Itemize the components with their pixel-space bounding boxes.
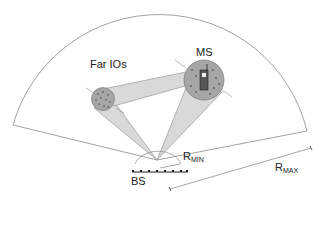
rmin-arrow — [160, 164, 180, 168]
far-ios-label: Far IOs — [90, 58, 127, 70]
rmax-sub: MAX — [283, 167, 298, 174]
base-station-array — [132, 170, 188, 172]
ms-label: MS — [196, 46, 213, 58]
rmin-sub: MIN — [191, 156, 204, 163]
rmin-main: R — [183, 150, 191, 162]
rmin-label: RMIN — [183, 150, 204, 163]
bs-label: BS — [131, 175, 146, 187]
beam-ms-to-far-io — [103, 72, 186, 106]
beam-to-far-io — [94, 103, 157, 160]
rmax-label: RMAX — [275, 161, 298, 174]
rmax-main: R — [275, 161, 283, 173]
